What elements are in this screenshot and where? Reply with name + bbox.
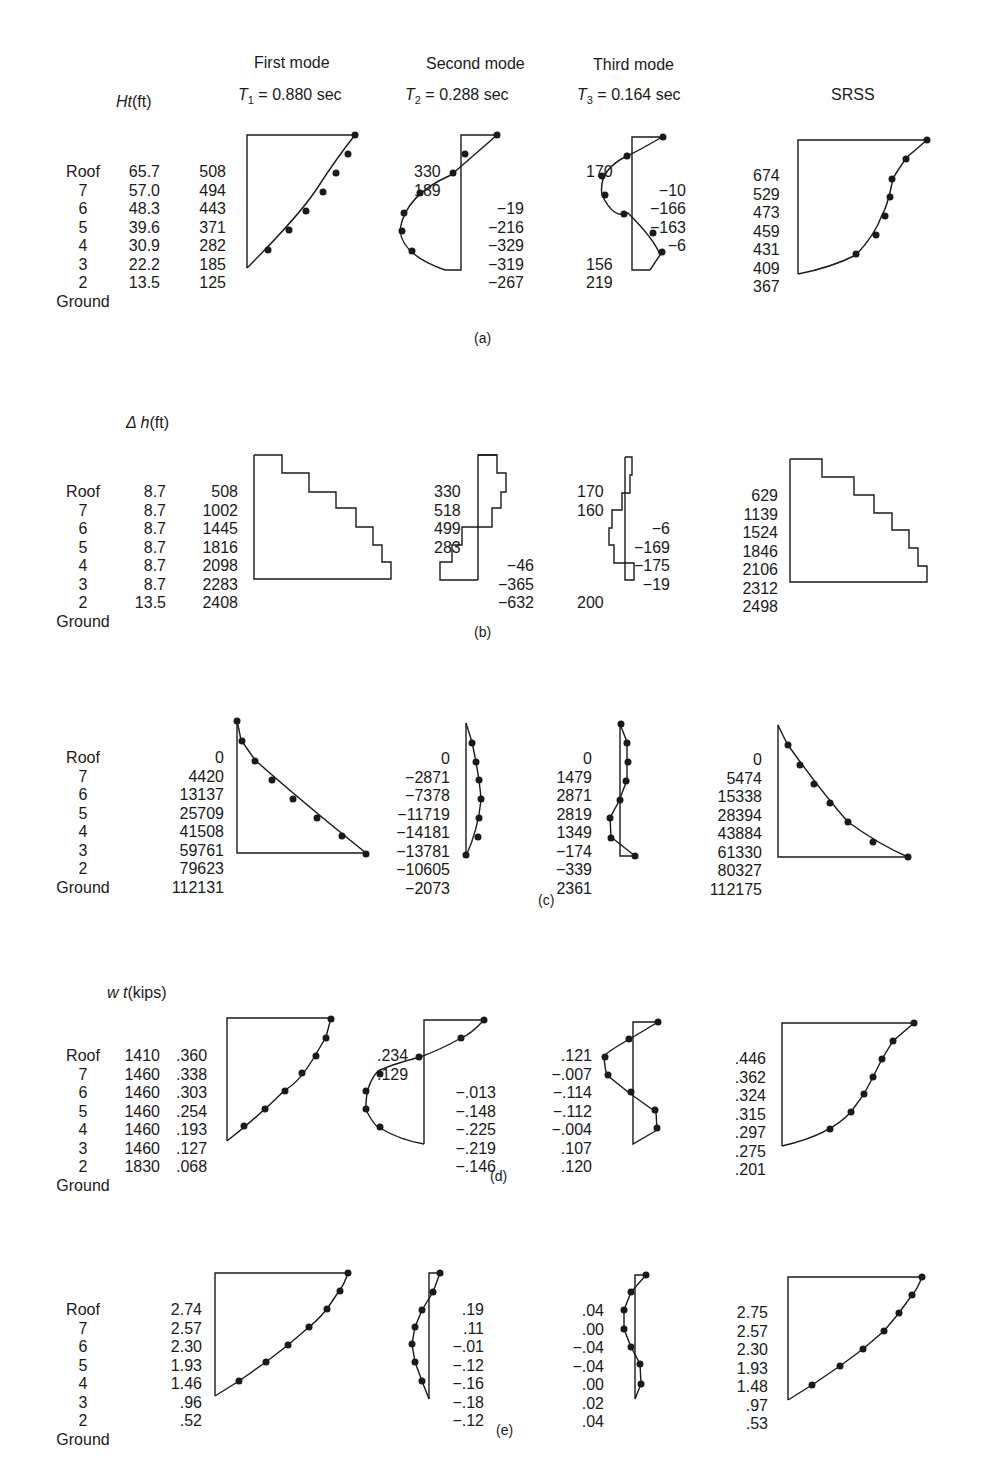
panel-e-srss-values: 2.752.572.301.931.48.97.53 xyxy=(726,1267,768,1452)
panel-c-mode2-values: 0−2871−7378−11719−14181−13781−10605−2073 xyxy=(390,713,450,917)
panel-c-levels: Roof765432Ground xyxy=(48,712,118,916)
panel-d-mode3-values: .121−.007−.114−.112−.004.107.120 xyxy=(540,1010,592,1195)
panel-b-mode3-left-values: 170160200 xyxy=(577,446,617,631)
panel-b-srss-values: 629113915241846210623122498 xyxy=(736,450,778,635)
panel-b-mode2-left-values: 330518499283 xyxy=(434,446,474,631)
panel-b-levels: Roof765432Ground xyxy=(48,446,118,650)
panel-d-wt-column: 1410146014601460146014601830 xyxy=(118,1010,160,1195)
dh-label: Δ h(ft) xyxy=(126,414,169,432)
panel-d-caption: (d) xyxy=(490,1168,507,1184)
mode3-period-value: = 0.164 sec xyxy=(597,86,680,103)
panel-c-caption: (c) xyxy=(538,892,554,908)
panel-e-srss-shape xyxy=(788,1277,922,1400)
panel-e-levels: Roof765432Ground xyxy=(48,1264,118,1468)
panel-a-ht-column: 65.757.048.339.630.922.213.5 xyxy=(120,126,160,311)
panel-e-caption: (e) xyxy=(496,1422,513,1438)
panel-b-caption: (b) xyxy=(474,624,491,640)
panel-a-mode1-values: 508494443371282185125 xyxy=(186,126,226,311)
wt-var: w t xyxy=(107,984,127,1001)
panel-e-mode1-shape xyxy=(215,1273,348,1396)
mode1-period-value: = 0.880 sec xyxy=(258,86,341,103)
dh-unit: (ft) xyxy=(149,414,169,431)
panel-b-mode1-values: 508100214451816209822832408 xyxy=(196,446,238,631)
panel-d-mode2-right-values: −.013−.148−.225−.219−.146 xyxy=(440,1010,496,1195)
panel-a-mode2-right-values: −19−216−329−319−267 xyxy=(470,126,524,311)
panel-b-mode2-right-values: −46−365−632 xyxy=(488,446,534,631)
panel-c-mode1-shape xyxy=(237,720,366,853)
mode1-period-sub: 1 xyxy=(248,94,254,106)
panel-b-srss-shape xyxy=(790,459,927,582)
panel-d-mode2-left-values: .234.129 xyxy=(377,1010,417,1195)
panel-c-srss-values: 054741533828394438846133080327112175 xyxy=(700,714,762,918)
dh-var: Δ h xyxy=(126,414,149,431)
mode1-period: T1 = 0.880 sec xyxy=(238,86,342,106)
mode2-period: T2 = 0.288 sec xyxy=(405,86,509,106)
ht-unit: (ft) xyxy=(132,93,152,110)
mode2-period-sub: 2 xyxy=(415,94,421,106)
ht-var: Ht xyxy=(116,93,132,110)
mode3-period-sub: 3 xyxy=(587,94,593,106)
wt-label: w t(kips) xyxy=(107,984,167,1002)
panel-a-mode3-right-values: −10−166−163−6 xyxy=(636,126,686,311)
panel-e-mode2-values: .19.11−.01−.12−.16−.18−.12 xyxy=(440,1264,484,1449)
mode2-period-value: = 0.288 sec xyxy=(425,86,508,103)
panel-d-mode1-shape xyxy=(227,1018,331,1141)
panel-a-mode1-shape xyxy=(247,135,355,268)
panel-b-dh-column: 8.78.78.78.78.78.713.5 xyxy=(126,446,166,631)
panel-a-mode2-left-values: 330189 xyxy=(414,126,454,311)
panel-d-srss-values: .446.362.324.315.297.275.201 xyxy=(726,1013,766,1198)
mode3-period: T3 = 0.164 sec xyxy=(577,86,681,106)
panel-a-caption: (a) xyxy=(474,330,491,346)
panel-d-mode1-values: .360.338.303.254.193.127.068 xyxy=(176,1010,216,1195)
mode2-period-symbol: T xyxy=(405,86,415,103)
panel-e-mode3-shape xyxy=(624,1275,646,1399)
mode3-period-symbol: T xyxy=(577,86,587,103)
panel-b-mode1-shape xyxy=(254,455,391,579)
panel-e-mode3-values: .04.00−.04−.04.00.02.04 xyxy=(562,1265,604,1450)
mode1-title: First mode xyxy=(254,54,330,72)
panel-a-srss-values: 674529473459431409367 xyxy=(753,130,793,315)
ht-label: Ht(ft) xyxy=(116,93,152,111)
srss-title: SRSS xyxy=(831,86,875,104)
panel-a-levels: Roof765432Ground xyxy=(48,126,118,330)
mode1-period-symbol: T xyxy=(238,86,248,103)
mode3-title: Third mode xyxy=(593,56,674,74)
panel-b-mode3-right-values: −6−169−175−19 xyxy=(624,446,670,631)
panel-c-srss-shape xyxy=(778,725,908,857)
panel-d-levels: Roof765432Ground xyxy=(48,1010,118,1214)
wt-unit: (kips) xyxy=(127,984,166,1001)
panel-c-mode1-values: 044201313725709415085976179623112131 xyxy=(166,712,224,916)
panel-e-mode1-values: 2.742.572.301.931.46.96.52 xyxy=(160,1264,202,1449)
mode2-title: Second mode xyxy=(426,55,525,73)
panel-a-mode3-left-values: 170156219 xyxy=(586,126,626,311)
panel-c-mode3-values: 01479287128191349−174−3392361 xyxy=(546,713,592,917)
